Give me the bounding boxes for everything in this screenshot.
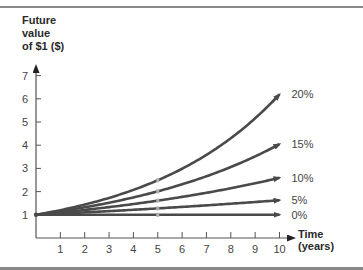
x-tick-label: 9 xyxy=(252,243,258,255)
y-tick-label: 2 xyxy=(22,186,28,198)
x-tick-label: 6 xyxy=(179,243,185,255)
y-tick-label: 7 xyxy=(22,70,28,82)
series-label: 5% xyxy=(292,194,308,206)
x-tick-label: 2 xyxy=(82,243,88,255)
y-tick-label: 1 xyxy=(22,209,28,221)
x-tick-label: 1 xyxy=(57,243,63,255)
x-tick-label: 10 xyxy=(273,243,285,255)
year-5-marker xyxy=(156,213,159,217)
series-line-20pct xyxy=(36,94,280,214)
y-tick-label: 4 xyxy=(22,139,28,151)
y-tick-label: 6 xyxy=(22,93,28,105)
x-tick-label: 3 xyxy=(106,243,112,255)
x-tick-label: 8 xyxy=(228,243,234,255)
origin-point xyxy=(34,213,38,217)
x-tick-label: 7 xyxy=(203,243,209,255)
year-5-marker xyxy=(156,206,159,210)
series-label: 10% xyxy=(292,172,314,184)
year-5-marker xyxy=(156,189,159,193)
line-chart: 12345671234567891020%15%10%5%0% xyxy=(0,0,363,270)
year-5-marker xyxy=(156,178,159,182)
year-5-marker xyxy=(156,199,159,203)
x-tick-label: 4 xyxy=(130,243,136,255)
y-tick-label: 3 xyxy=(22,162,28,174)
series-label: 20% xyxy=(292,88,314,100)
series-label: 15% xyxy=(292,138,314,150)
y-tick-label: 5 xyxy=(22,116,28,128)
series-label: 0% xyxy=(292,209,308,221)
x-tick-label: 5 xyxy=(155,243,161,255)
